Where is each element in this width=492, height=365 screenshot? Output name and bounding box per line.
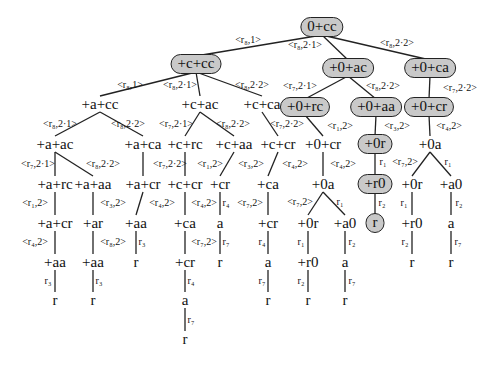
tree-node: +r0 [402, 216, 423, 231]
tree-node: +0a [312, 177, 335, 192]
edge-label: <r₇,2> [287, 197, 313, 207]
derivation-tree-diagram: 0+cc+c+cc+0+ac+0+ca+a+cc+c+ac+c+ca+0+rc+… [0, 0, 492, 365]
tree-node-highlighted: +0+rc [280, 97, 330, 117]
tree-node: +aa [82, 255, 104, 270]
edge-label: <r₁,2> [197, 159, 223, 169]
edge-label: r₄ [223, 198, 230, 208]
tree-node: +cr [175, 255, 195, 270]
tree-node: +0r [402, 177, 423, 192]
edge-label: r₂ [379, 198, 386, 208]
tree-node: +c+cr [167, 177, 202, 192]
edge-label: <r₈,2·2> [111, 119, 145, 129]
edge-label: r₇ [349, 276, 356, 286]
tree-node-highlighted: +0+aa [350, 97, 402, 117]
edge-label: <r₈,1> [235, 35, 261, 45]
edge-label: <r₇,2> [392, 157, 418, 167]
edge-label: <r₈,2·1> [163, 80, 197, 90]
tree-node: r [410, 255, 415, 270]
tree-node: a [217, 216, 224, 231]
edge-label: <r₃,2> [100, 198, 126, 208]
edge-label: <r₇,2·1> [21, 159, 55, 169]
tree-node: +a+cc [82, 97, 119, 112]
tree-node: +ca [257, 177, 279, 192]
tree-node: r [183, 332, 188, 347]
tree-node: r [306, 293, 311, 308]
edge-label: r₇ [188, 315, 195, 325]
tree-node: +a0 [440, 177, 463, 192]
tree-node-highlighted: +0+ca [404, 58, 456, 78]
edge-label: r₇ [223, 237, 230, 247]
tree-node: a [448, 216, 455, 231]
tree-edge [305, 115, 323, 136]
tree-node: +a0 [334, 216, 357, 231]
edge-label: r₄ [259, 237, 266, 247]
edge-label: <r₇,2·1> [283, 81, 317, 91]
edge-label: <r₇,2> [237, 198, 263, 208]
tree-edge [375, 115, 376, 136]
tree-node: +aa [125, 216, 147, 231]
tree-edge [429, 76, 430, 99]
tree-node: r [218, 255, 223, 270]
edge-label: <r₈,2·2> [235, 80, 269, 90]
tree-node: +ca [174, 216, 196, 231]
edge-label: r₁ [298, 237, 305, 247]
edge-label: <r₃,2> [384, 121, 410, 131]
tree-node: +a+ac [37, 137, 74, 152]
tree-edge [268, 152, 278, 176]
edge-label: <r₁,2> [22, 198, 48, 208]
edge-label: r₂ [456, 198, 463, 208]
edge-label: <r₈,2·2> [86, 159, 120, 169]
tree-node: +0a [419, 137, 442, 152]
tree-node: r [343, 293, 348, 308]
tree-node-highlighted: 0+cc [300, 17, 343, 37]
edge-label: r₄ [188, 276, 195, 286]
tree-node-highlighted: r [366, 213, 385, 233]
edge-label: <r₈,2·2> [366, 81, 400, 91]
edge-label: <r₈,2·2> [380, 38, 414, 48]
tree-node: +ar [83, 216, 103, 231]
edge-label: <r₈,2·1> [43, 119, 77, 129]
edge-label: <r₃,2> [238, 159, 264, 169]
edge-label: r₇ [259, 276, 266, 286]
tree-node: +c+rc [167, 137, 202, 152]
tree-node: +0+cr [305, 137, 341, 152]
tree-node: +a+ca [125, 137, 162, 152]
tree-node: +0r [298, 216, 319, 231]
edge-label: <r₈,2·1> [288, 40, 322, 50]
tree-node: +c+ac [182, 97, 219, 112]
tree-node: r [449, 255, 454, 270]
tree-node-highlighted: +r0 [358, 174, 393, 194]
tree-node: +a+cr [37, 216, 72, 231]
tree-node: +a+cr [125, 177, 160, 192]
edge-label: <r₈,2> [100, 237, 126, 247]
edge-label: <r₄,2> [330, 159, 356, 169]
edge-label: <r₄,2> [149, 198, 175, 208]
edge-label: <r₄,2> [22, 237, 48, 247]
edge-label: r₃ [139, 237, 146, 247]
edge-label: r₇ [455, 237, 462, 247]
tree-edge [136, 192, 143, 215]
edge-label: r₃ [45, 276, 52, 286]
tree-node: a [342, 255, 349, 270]
edge-label: r₁ [445, 157, 452, 167]
tree-node: +cr [210, 177, 230, 192]
tree-node: +r0 [298, 255, 319, 270]
edge-label: <r₁,2> [327, 121, 353, 131]
tree-node: +c+ca [244, 97, 281, 112]
tree-node: r [134, 255, 139, 270]
edge-label: r₂ [402, 237, 409, 247]
tree-node: +a+aa [75, 177, 112, 192]
edge-label: r₂ [349, 237, 356, 247]
edge-label: <r₇,2·1> [159, 119, 193, 129]
tree-node: r [53, 293, 58, 308]
tree-node-highlighted: +0+ac [322, 58, 374, 78]
edge-label: r₁ [337, 197, 344, 207]
edge-label: <r₈,2·2> [216, 119, 250, 129]
tree-edge [429, 115, 430, 136]
tree-node: r [266, 293, 271, 308]
tree-node: r [91, 293, 96, 308]
edge-label: <r₄,2> [191, 198, 217, 208]
edge-label: r₂ [298, 276, 305, 286]
tree-node: +c+cr [260, 137, 295, 152]
edge-label: <r₄,2> [436, 121, 462, 131]
